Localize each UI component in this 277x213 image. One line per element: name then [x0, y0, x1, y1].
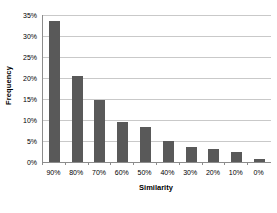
x-axis-tick-labels: 90%80%70%60%50%40%30%20%10%0% — [42, 168, 270, 180]
x-axis-tick-mark — [133, 162, 134, 165]
bar — [94, 100, 105, 162]
bar-slot — [203, 15, 226, 162]
x-axis-tick-mark — [224, 162, 225, 165]
bar-slot — [43, 15, 66, 162]
x-axis-tick-slot — [42, 162, 65, 166]
y-axis-tick-label: 0% — [27, 159, 37, 166]
x-axis-tick-slot — [133, 162, 156, 166]
y-axis-tick-label: 15% — [23, 96, 37, 103]
x-axis-tick-mark — [88, 162, 89, 165]
bar — [231, 152, 242, 162]
x-axis-tick-label: 0% — [247, 168, 270, 180]
x-axis-tick-slot — [247, 162, 270, 166]
x-axis-tick-marks — [42, 162, 270, 166]
x-axis-title: Similarity — [42, 183, 270, 192]
bar — [140, 127, 151, 162]
bar-slot — [134, 15, 157, 162]
bars-group — [43, 15, 271, 162]
x-axis-tick-slot — [65, 162, 88, 166]
x-axis-tick-label: 10% — [224, 168, 247, 180]
x-axis-tick-label: 20% — [202, 168, 225, 180]
x-axis-tick-label: 50% — [133, 168, 156, 180]
bar-slot — [111, 15, 134, 162]
x-axis-tick-mark — [202, 162, 203, 165]
y-axis-title: Frequency — [0, 0, 16, 170]
bar-slot — [157, 15, 180, 162]
bar-slot — [89, 15, 112, 162]
y-axis-tick-label: 5% — [27, 138, 37, 145]
x-axis-tick-slot — [88, 162, 111, 166]
y-axis-tick-label: 30% — [23, 33, 37, 40]
x-axis-tick-mark — [65, 162, 66, 165]
x-axis-tick-slot — [202, 162, 225, 166]
bar — [117, 122, 128, 162]
y-axis-tick-label: 20% — [23, 75, 37, 82]
bar — [186, 147, 197, 162]
x-axis-tick-slot — [110, 162, 133, 166]
y-axis-tick-label: 25% — [23, 54, 37, 61]
y-axis-tick-label: 10% — [23, 117, 37, 124]
y-axis-title-label: Frequency — [4, 66, 13, 105]
x-axis-tick-label: 80% — [65, 168, 88, 180]
x-axis-tick-mark — [247, 162, 248, 165]
bar-slot — [66, 15, 89, 162]
bar — [72, 76, 83, 162]
x-axis-tick-label: 70% — [88, 168, 111, 180]
x-axis-tick-mark — [110, 162, 111, 165]
x-axis-tick-mark — [42, 162, 43, 165]
bar — [49, 21, 60, 162]
x-axis-tick-label: 30% — [179, 168, 202, 180]
x-axis-tick-slot — [179, 162, 202, 166]
bar — [208, 149, 219, 162]
y-axis-tick-labels: 0%5%10%15%20%25%30%35% — [16, 15, 40, 162]
x-axis-tick-label: 40% — [156, 168, 179, 180]
bar-chart: Frequency 0%5%10%15%20%25%30%35% 90%80%7… — [0, 0, 277, 213]
x-axis-tick-mark — [156, 162, 157, 165]
y-axis-tick-label: 35% — [23, 12, 37, 19]
bar-slot — [225, 15, 248, 162]
plot-area — [42, 15, 271, 162]
bar — [163, 141, 174, 162]
bar-slot — [248, 15, 271, 162]
x-axis-tick-label: 60% — [110, 168, 133, 180]
x-axis-tick-slot — [224, 162, 247, 166]
bar-slot — [180, 15, 203, 162]
x-axis-tick-label: 90% — [42, 168, 65, 180]
x-axis-tick-mark — [179, 162, 180, 165]
x-axis-tick-slot — [156, 162, 179, 166]
